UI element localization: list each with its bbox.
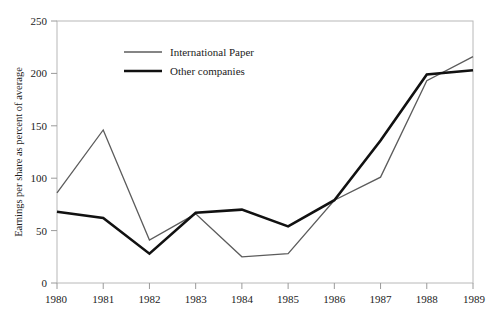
plot-frame xyxy=(57,21,473,283)
x-tick-label: 1980 xyxy=(45,293,68,305)
chart-container: 050100150200250 198019811982198319841985… xyxy=(0,0,501,320)
plot-area-border xyxy=(57,21,473,283)
y-tick-label: 100 xyxy=(31,172,48,184)
y-axis-ticks xyxy=(51,21,57,283)
x-tick-label: 1987 xyxy=(370,293,393,305)
x-tick-label: 1986 xyxy=(323,293,346,305)
x-tick-label: 1981 xyxy=(92,293,114,305)
legend-label-0: International Paper xyxy=(170,46,254,58)
y-tick-label: 250 xyxy=(31,15,48,27)
x-tick-label: 1985 xyxy=(277,293,300,305)
y-axis-tick-labels: 050100150200250 xyxy=(31,15,48,289)
x-tick-label: 1988 xyxy=(416,293,439,305)
y-tick-label: 50 xyxy=(36,225,48,237)
series-line-1 xyxy=(57,70,473,253)
x-tick-label: 1984 xyxy=(231,293,254,305)
x-axis-ticks xyxy=(57,283,473,289)
y-axis-title: Earnings per share as percent of average xyxy=(13,67,24,237)
x-tick-label: 1982 xyxy=(138,293,160,305)
x-tick-label: 1989 xyxy=(463,293,486,305)
chart-legend: International PaperOther companies xyxy=(124,46,254,77)
y-tick-label: 200 xyxy=(31,67,48,79)
line-chart: 050100150200250 198019811982198319841985… xyxy=(0,0,501,320)
x-axis-tick-labels: 1980198119821983198419851986198719881989 xyxy=(45,293,486,305)
data-series-group xyxy=(57,57,473,257)
x-tick-label: 1983 xyxy=(185,293,208,305)
y-tick-label: 0 xyxy=(42,277,48,289)
y-tick-label: 150 xyxy=(31,120,48,132)
legend-label-1: Other companies xyxy=(170,65,245,77)
series-line-0 xyxy=(57,57,473,257)
